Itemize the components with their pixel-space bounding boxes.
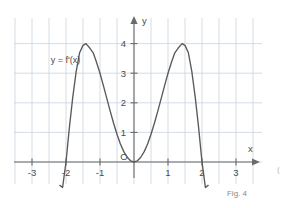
figure-container: -3-2-1O1231234 y = f'(x) x y Fig. 4 ( [0,0,282,208]
y-tick-label-1: 1 [121,127,126,138]
curve-label: y = f'(x) [51,55,80,65]
x-axis-arrow-icon [252,158,260,165]
x-tick-label--2: -2 [62,167,70,178]
figure-caption: Fig. 4 [227,189,248,198]
x-tick-label--3: -3 [28,167,36,178]
y-tick-label-4: 4 [121,38,126,49]
grid-lines [14,18,262,184]
y-axis-label: y [142,15,147,26]
y-tick-label-3: 3 [121,68,126,79]
edge-paren-mark: ( [277,165,280,174]
x-tick-label--1: -1 [96,167,104,178]
plot-canvas: -3-2-1O1231234 y = f'(x) x y Fig. 4 ( [0,0,282,208]
x-tick-label-3: 3 [233,167,238,178]
y-axis-arrow-icon [130,16,137,24]
x-axis-label: x [248,143,253,154]
y-tick-label-2: 2 [121,97,126,108]
x-tick-label-1: 1 [165,167,170,178]
axes [14,16,260,178]
